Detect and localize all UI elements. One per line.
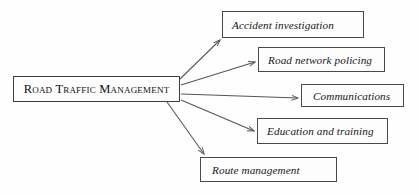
connector-to-route-management: [167, 102, 204, 154]
node-label-education-and-training: Education and training: [258, 125, 387, 137]
node-label-communications: Communications: [302, 90, 403, 102]
connector-to-communications: [181, 94, 298, 98]
diagram-canvas: Road Traffic Management Accident investi…: [0, 0, 419, 195]
node-label-accident-investigation: Accident investigation: [223, 19, 363, 31]
node-education-and-training[interactable]: Education and training: [257, 118, 388, 144]
node-route-management[interactable]: Route management: [200, 157, 337, 182]
node-road-traffic-management[interactable]: Road Traffic Management: [13, 76, 180, 102]
node-road-network-policing[interactable]: Road network policing: [258, 47, 385, 72]
node-communications[interactable]: Communications: [301, 84, 404, 107]
node-label-root: Road Traffic Management: [14, 82, 179, 97]
connector-to-road-network-policing: [181, 62, 255, 85]
connector-to-education-and-training: [181, 100, 254, 131]
node-label-route-management: Route management: [201, 164, 336, 176]
node-accident-investigation[interactable]: Accident investigation: [222, 11, 364, 38]
node-label-road-network-policing: Road network policing: [259, 54, 384, 66]
connector-to-accident-investigation: [180, 40, 220, 79]
